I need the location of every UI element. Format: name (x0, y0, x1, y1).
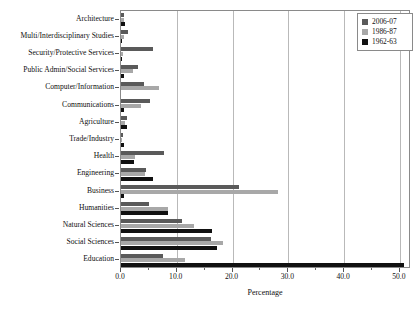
category-label: Public Admin/Social Services (23, 65, 114, 74)
category-tick (115, 242, 119, 243)
category-label: Agriculture (79, 117, 114, 126)
chart-legend: 2006-071986-871962-63 (357, 13, 413, 51)
bar (121, 65, 138, 69)
value-tick-label: 0.0 (100, 272, 140, 281)
value-tick-label: 50.0 (379, 272, 417, 281)
legend-entry: 2006-07 (362, 17, 409, 27)
gridline (344, 11, 345, 267)
bar (121, 99, 150, 103)
bar (121, 194, 124, 198)
value-tick-label: 40.0 (323, 272, 363, 281)
value-tick-minor (315, 268, 316, 270)
bar (121, 13, 124, 17)
value-tick-minor (259, 268, 260, 270)
value-tick-minor (204, 268, 205, 270)
legend-swatch-icon (362, 39, 368, 45)
bar (121, 86, 159, 90)
bar (121, 160, 134, 164)
bar (121, 168, 146, 172)
category-label: Engineering (77, 168, 114, 177)
bar (121, 185, 239, 189)
bar (121, 190, 278, 194)
bar (121, 74, 124, 78)
bar (121, 138, 122, 142)
legend-swatch-icon (362, 29, 368, 35)
legend-entry: 1962-63 (362, 37, 409, 47)
category-label: Multi/Interdisciplinary Studies (21, 31, 114, 40)
bar (121, 151, 164, 155)
bar (121, 258, 185, 262)
bar (121, 224, 194, 228)
category-label: Social Sciences (67, 237, 114, 246)
bar (121, 211, 168, 215)
bar (121, 39, 122, 43)
bar (121, 237, 211, 241)
bar (121, 47, 153, 51)
legend-label: 2006-07 (372, 18, 397, 26)
x-axis-title: Percentage (120, 288, 410, 297)
bar (121, 116, 127, 120)
bar (121, 202, 149, 206)
bar (121, 254, 163, 258)
category-tick (115, 139, 119, 140)
category-tick (115, 105, 119, 106)
bar (121, 241, 223, 245)
bar (121, 35, 124, 39)
bar (121, 125, 127, 129)
bar (121, 246, 217, 250)
category-tick (115, 208, 119, 209)
category-label: Education (83, 254, 114, 263)
category-label: Trade/Industry (69, 134, 114, 143)
gridline (233, 11, 234, 267)
category-tick (115, 156, 119, 157)
bar (121, 177, 153, 181)
category-tick (115, 259, 119, 260)
category-axis-labels: ArchitectureMulti/Interdisciplinary Stud… (0, 10, 118, 268)
value-tick-label: 20.0 (212, 272, 252, 281)
bar (121, 172, 145, 176)
category-label: Architecture (76, 14, 114, 23)
value-tick-label: 10.0 (156, 272, 196, 281)
category-tick (115, 36, 119, 37)
gridline (288, 11, 289, 267)
bar (121, 229, 212, 233)
category-label: Health (94, 151, 114, 160)
bar (121, 57, 122, 61)
category-tick (115, 19, 119, 20)
bar (121, 108, 124, 112)
bar (121, 69, 133, 73)
bar (121, 133, 123, 137)
bar (121, 121, 125, 125)
category-label: Business (87, 186, 114, 195)
legend-label: 1986-87 (372, 28, 397, 36)
category-label: Security/Protective Services (28, 48, 114, 57)
category-tick (115, 173, 119, 174)
value-tick-minor (148, 268, 149, 270)
bar (121, 82, 144, 86)
bar-chart-figure: ArchitectureMulti/Interdisciplinary Stud… (0, 0, 417, 311)
bar (121, 263, 404, 267)
bar (121, 143, 124, 147)
category-tick (115, 87, 119, 88)
value-tick-minor (371, 268, 372, 270)
category-label: Humanities (79, 203, 114, 212)
legend-label: 1962-63 (372, 38, 397, 46)
category-tick (115, 70, 119, 71)
category-tick (115, 225, 119, 226)
value-tick-label: 30.0 (267, 272, 307, 281)
legend-swatch-icon (362, 19, 368, 25)
category-tick (115, 53, 119, 54)
bar (121, 207, 168, 211)
category-label: Communications (62, 100, 114, 109)
category-label: Natural Sciences (63, 220, 114, 229)
bar (121, 52, 123, 56)
bar (121, 22, 125, 26)
bar (121, 104, 141, 108)
bar (121, 30, 128, 34)
bar (121, 18, 124, 22)
bar (121, 219, 182, 223)
legend-entry: 1986-87 (362, 27, 409, 37)
category-label: Computer/Information (45, 82, 114, 91)
category-tick (115, 191, 119, 192)
category-tick (115, 122, 119, 123)
